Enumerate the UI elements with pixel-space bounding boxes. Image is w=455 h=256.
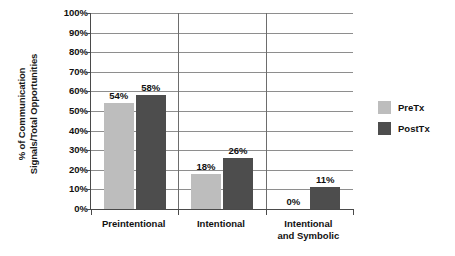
x-axis-tick xyxy=(353,209,354,215)
y-axis-tick xyxy=(86,111,91,112)
x-axis-tick xyxy=(178,209,179,215)
x-axis-tick xyxy=(266,209,267,215)
y-axis-tick xyxy=(86,189,91,190)
bar-pretx-0 xyxy=(104,103,134,209)
legend: PreTxPostTx xyxy=(378,99,450,141)
gridline xyxy=(91,33,353,34)
bar-value-label: 18% xyxy=(187,162,225,172)
y-axis-tick xyxy=(86,91,91,92)
bar-value-label: 58% xyxy=(132,83,170,93)
x-axis-category-label: Intentional xyxy=(177,218,264,230)
y-axis-tick-label: 0% xyxy=(47,204,88,214)
y-axis-tick-label: 100% xyxy=(47,8,88,18)
y-axis-tick xyxy=(86,13,91,14)
y-axis-tick-label: 90% xyxy=(47,28,88,38)
category-divider xyxy=(266,13,267,209)
bar-posttx-0 xyxy=(136,95,166,209)
y-axis-tick-label: 60% xyxy=(47,86,88,96)
gridline xyxy=(91,72,353,73)
legend-label: PreTx xyxy=(398,102,424,113)
y-axis-title: % of Communication Signals/Total Opportu… xyxy=(16,9,50,219)
y-axis-tick xyxy=(86,72,91,73)
gridline xyxy=(91,13,353,14)
y-axis-tick xyxy=(86,52,91,53)
y-axis-tick xyxy=(86,150,91,151)
y-axis-tick-label: 40% xyxy=(47,126,88,136)
bar-chart: % of Communication Signals/Total Opportu… xyxy=(0,0,455,256)
y-axis-tick-labels: 0%10%20%30%40%50%60%70%80%90%100% xyxy=(47,13,88,209)
x-axis-category-label: Intentionaland Symbolic xyxy=(265,218,352,242)
legend-swatch-pretx xyxy=(378,101,391,114)
bar-posttx-2 xyxy=(310,187,340,209)
bar-pretx-1 xyxy=(191,174,221,209)
bar-value-label: 0% xyxy=(274,197,312,207)
plot-area: 54%58%18%26%0%11% xyxy=(90,13,353,210)
x-axis-category-label-line: Intentional xyxy=(177,218,264,230)
y-axis-tick-label: 80% xyxy=(47,47,88,57)
legend-item-posttx[interactable]: PostTx xyxy=(378,120,450,137)
y-axis-tick xyxy=(86,131,91,132)
y-axis-tick-label: 10% xyxy=(47,184,88,194)
y-axis-tick-label: 70% xyxy=(47,67,88,77)
y-axis-title-line1: % of Communication xyxy=(16,9,28,219)
y-axis-title-line2: Signals/Total Opportunities xyxy=(28,9,40,219)
x-axis-category-label-line: Intentional xyxy=(265,218,352,230)
y-axis-tick-label: 30% xyxy=(47,145,88,155)
y-axis-tick xyxy=(86,33,91,34)
y-axis-tick-label: 20% xyxy=(47,165,88,175)
legend-item-pretx[interactable]: PreTx xyxy=(378,99,450,116)
x-axis-category-label: Preintentional xyxy=(90,218,177,230)
bar-value-label: 26% xyxy=(219,146,257,156)
bar-value-label: 11% xyxy=(306,175,344,185)
gridline xyxy=(91,52,353,53)
category-divider xyxy=(178,13,179,209)
y-axis-tick xyxy=(86,170,91,171)
y-axis-tick-label: 50% xyxy=(47,106,88,116)
x-axis-category-label-line: and Symbolic xyxy=(265,230,352,242)
x-axis-tick xyxy=(91,209,92,215)
x-axis-category-labels: PreintentionalIntentionalIntentionaland … xyxy=(90,218,352,252)
bar-posttx-1 xyxy=(223,158,253,209)
x-axis-category-label-line: Preintentional xyxy=(90,218,177,230)
legend-swatch-posttx xyxy=(378,122,391,135)
legend-label: PostTx xyxy=(398,123,430,134)
